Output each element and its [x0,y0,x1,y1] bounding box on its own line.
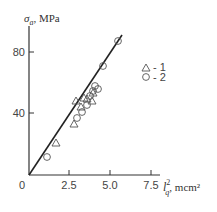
y-tick-label: 40 [13,107,25,119]
x-axis-label: l2q, mcm² [163,178,201,197]
legend-triangle-icon [142,64,150,71]
chart: 80 40 0 2.5 5.0 7.5 σa, MPa l2q, mcm² [0,0,217,212]
y-tick-label: 80 [13,46,25,58]
x-tick-label: 7.5 [143,179,158,191]
origin-label: 0 [19,179,25,191]
y-axis-label: σa, MPa [24,12,60,27]
x-tick-label: 2.5 [61,179,76,191]
fit-line [29,35,122,175]
x-tick-label: 5.0 [102,179,117,191]
legend-label-2: - 2 [153,71,166,83]
legend-circle-icon [143,74,150,81]
legend: - 1 - 2 [142,61,166,83]
series-1-markers [52,89,97,146]
series-2-markers [44,38,122,161]
